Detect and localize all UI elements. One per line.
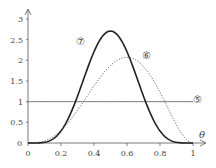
series <box>28 31 193 143</box>
y-tick-label: 1 <box>18 98 23 107</box>
y-tick-label: 3 <box>18 15 23 24</box>
curve-label: ⑥ <box>142 50 151 61</box>
chart: 00.20.40.60.8100.511.522.53θ ⑤⑥⑦ <box>0 0 216 168</box>
x-tick-label: 0 <box>25 149 30 158</box>
series-6-curve <box>28 57 193 143</box>
x-tick-label: 1 <box>190 149 195 158</box>
series-7-curve <box>28 31 193 143</box>
y-tick-label: 2.5 <box>10 36 23 45</box>
y-tick-label: 2 <box>18 56 23 65</box>
x-tick-label: 0.2 <box>55 149 68 158</box>
x-tick-label: 0.4 <box>88 149 101 158</box>
curve-labels: ⑤⑥⑦ <box>76 36 202 105</box>
x-tick-label: 0.6 <box>121 149 134 158</box>
y-tick-label: 0.5 <box>10 118 23 127</box>
curve-label: ⑤ <box>193 94 202 105</box>
y-tick-label: 0 <box>17 139 22 148</box>
y-tick-label: 1.5 <box>10 77 23 86</box>
x-axis-label: θ <box>199 129 205 140</box>
x-tick-label: 0.8 <box>154 149 167 158</box>
curve-label: ⑦ <box>76 36 85 47</box>
